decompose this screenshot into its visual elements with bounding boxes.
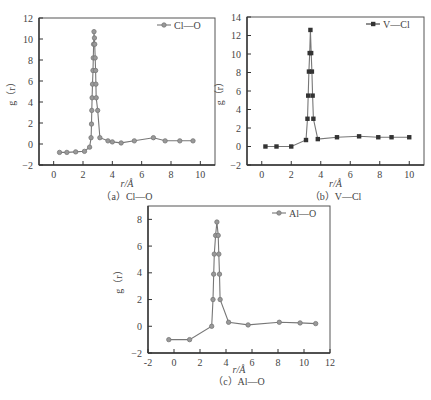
x-tick-label: 6 (139, 169, 144, 180)
y-axis-label: g（r） (214, 77, 225, 105)
data-point (167, 337, 171, 341)
legend-label: V—Cl (383, 19, 410, 30)
y-tick-label: 12 (231, 30, 241, 41)
x-tick-label: 4 (224, 357, 229, 368)
y-tick-label: 4 (28, 97, 33, 108)
y-tick-label: 2 (28, 118, 33, 129)
series-line (60, 32, 194, 153)
data-point (298, 321, 302, 325)
y-tick-label: 8 (137, 214, 142, 225)
data-point (210, 324, 214, 328)
y-tick-label: 2 (236, 123, 241, 134)
y-tick-label: 8 (236, 67, 241, 78)
y-tick-label: 4 (137, 267, 142, 278)
data-point (357, 134, 361, 138)
x-tick-label: 10 (195, 169, 205, 180)
panel-caption: （c）Al—O (213, 376, 265, 387)
y-tick-label: 0 (137, 321, 142, 332)
y-tick-label: 4 (236, 104, 241, 115)
legend-marker (277, 211, 281, 215)
data-point (217, 272, 221, 276)
x-axis-label: r/Å (233, 364, 247, 375)
data-point (90, 108, 94, 112)
data-point (306, 93, 310, 97)
y-tick-label: −2 (131, 348, 142, 359)
x-tick-label: 8 (377, 169, 382, 180)
plot-frame (247, 17, 424, 165)
data-point (82, 149, 86, 153)
data-point (309, 51, 313, 55)
x-tick-label: 0 (51, 169, 56, 180)
data-point (87, 145, 91, 149)
legend-label: Al—O (289, 208, 316, 219)
data-point (216, 233, 220, 237)
x-tick-label: 4 (110, 169, 115, 180)
legend-label: Cl—O (174, 20, 201, 31)
data-point (92, 36, 96, 40)
x-tick-label: -2 (144, 357, 152, 368)
data-point (314, 321, 318, 325)
x-tick-label: 6 (348, 169, 353, 180)
y-tick-label: 6 (28, 76, 33, 87)
x-tick-label: 2 (289, 169, 294, 180)
data-point (95, 108, 99, 112)
data-point (92, 29, 96, 33)
y-tick-label: 0 (236, 141, 241, 152)
series-line (265, 30, 409, 147)
x-tick-label: 2 (81, 169, 86, 180)
data-point (73, 150, 77, 154)
x-tick-label: 4 (318, 169, 323, 180)
data-point (215, 220, 219, 224)
data-point (316, 137, 320, 141)
chart-a: 0246810−2024681012r/Åg（r）（a）Cl—OCl—O (6, 13, 215, 203)
data-point (106, 139, 110, 143)
x-tick-label: 0 (259, 169, 264, 180)
data-point (151, 136, 155, 140)
data-point (65, 150, 69, 154)
y-tick-label: 6 (137, 241, 142, 252)
data-point (310, 69, 314, 73)
data-point (93, 68, 97, 72)
y-tick-label: −2 (22, 160, 33, 171)
y-tick-label: 8 (28, 55, 33, 66)
data-point (218, 297, 222, 301)
data-point (389, 135, 393, 139)
data-point (211, 272, 215, 276)
x-tick-label: 8 (169, 169, 174, 180)
legend-marker (162, 23, 166, 27)
y-tick-label: 2 (137, 294, 142, 305)
chart-c: -2024681012−202468r/Åg（r）（c）Al—OAl—O (113, 206, 335, 387)
data-point (89, 136, 93, 140)
data-point (246, 323, 250, 327)
data-point (89, 122, 93, 126)
x-tick-label: 10 (404, 169, 414, 180)
y-tick-label: 10 (231, 49, 241, 60)
y-axis-label: g（r） (6, 77, 17, 105)
panel-caption: （b）V—Cl (310, 191, 362, 202)
data-point (289, 144, 293, 148)
x-tick-label: 12 (325, 357, 335, 368)
legend-marker (371, 22, 375, 26)
data-point (178, 139, 182, 143)
data-point (98, 136, 102, 140)
y-tick-label: 6 (236, 86, 241, 97)
data-point (93, 56, 97, 60)
data-point (132, 139, 136, 143)
figure: 0246810−2024681012r/Åg（r）（a）Cl—OCl—O0246… (0, 0, 431, 400)
data-point (226, 320, 230, 324)
data-point (407, 135, 411, 139)
data-point (304, 138, 308, 142)
data-point (119, 141, 123, 145)
data-point (376, 135, 380, 139)
chart-b: 0246810−202468101214r/Åg（r）（b）V—ClV—Cl (214, 12, 424, 203)
x-axis-label: r/Å (329, 178, 343, 189)
data-point (191, 139, 195, 143)
x-axis-label: r/Å (121, 178, 135, 189)
data-point (94, 82, 98, 86)
y-tick-label: −2 (230, 160, 241, 171)
plot-frame (39, 18, 215, 165)
x-tick-label: 6 (250, 357, 255, 368)
x-tick-label: 2 (198, 357, 203, 368)
data-point (211, 297, 215, 301)
y-tick-label: 10 (23, 34, 33, 45)
